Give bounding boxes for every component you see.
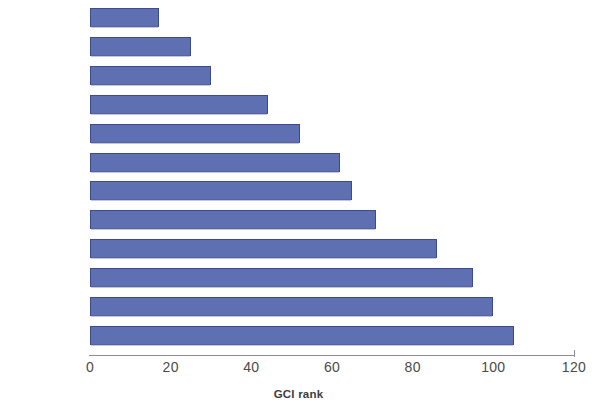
- bar-oman: [90, 153, 340, 172]
- x-tick-100: 100: [481, 359, 505, 375]
- x-tick-0: 0: [86, 359, 94, 375]
- bar-egypt: [90, 297, 493, 316]
- bar-saudi-arabia: [90, 66, 211, 85]
- bar-algeria: [90, 239, 437, 258]
- x-axis-end-tick: [574, 350, 575, 357]
- bar-qatar: [90, 37, 191, 56]
- x-tick-20: 20: [163, 359, 179, 375]
- x-tick-60: 60: [324, 359, 340, 375]
- x-axis-title: GCI rank: [0, 388, 597, 400]
- bar-uae: [90, 8, 159, 27]
- plot-area: UAE Qatar Saudi Arabia Bahrain Kuwait Om…: [0, 0, 597, 352]
- bar-morocco: [90, 210, 376, 229]
- x-tick-120: 120: [562, 359, 586, 375]
- bar-tunisia: [90, 268, 473, 287]
- bar-lebanon: [90, 326, 514, 345]
- x-tick-80: 80: [405, 359, 421, 375]
- bar-kuwait: [90, 124, 300, 143]
- x-tick-40: 40: [243, 359, 259, 375]
- x-axis-line: [89, 355, 575, 356]
- bar-bahrain: [90, 95, 268, 114]
- bar-jordan: [90, 181, 352, 200]
- gci-rank-bar-chart: UAE Qatar Saudi Arabia Bahrain Kuwait Om…: [0, 0, 597, 413]
